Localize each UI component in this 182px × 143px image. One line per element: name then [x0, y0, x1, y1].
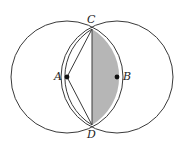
- point-label-d: D: [87, 129, 96, 140]
- point-b-dot: [115, 75, 120, 80]
- point-label-c: C: [87, 14, 95, 25]
- point-label-b: B: [123, 71, 131, 82]
- point-a-dot: [65, 75, 70, 80]
- geometry-figure: A B C D: [0, 0, 182, 143]
- point-label-a: A: [54, 71, 62, 82]
